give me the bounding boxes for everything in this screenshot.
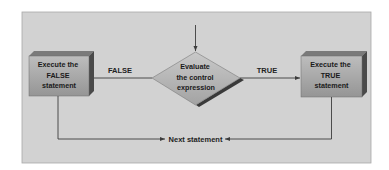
true-box-top (301, 51, 367, 56)
decision-line-3: expression (177, 83, 215, 92)
true-box-line-2: TRUE (321, 71, 341, 80)
false-box-top (29, 51, 94, 56)
if-else-flowchart: FALSE TRUE Execute the FALSE statement E… (0, 0, 389, 170)
false-box-line-2: FALSE (46, 71, 69, 80)
false-box-side (89, 51, 94, 96)
next-statement-label: Next statement (169, 135, 223, 144)
true-box-side (362, 51, 367, 97)
false-statement-box: Execute the FALSE statement (29, 51, 94, 96)
true-edge-label: TRUE (257, 66, 277, 75)
svg-text:Evaluate the control: Evaluate the control expression (176, 62, 215, 92)
true-box-line-3: statement (315, 81, 350, 90)
false-edge-label: FALSE (108, 66, 132, 75)
false-box-line-3: statement (42, 81, 77, 90)
true-statement-box: Execute the TRUE statement (301, 51, 367, 97)
false-box-line-1: Execute the (38, 60, 78, 69)
decision-line-1: Evaluate (180, 62, 210, 71)
decision-line-2: the control (176, 73, 213, 82)
true-box-line-1: Execute the (310, 60, 350, 69)
